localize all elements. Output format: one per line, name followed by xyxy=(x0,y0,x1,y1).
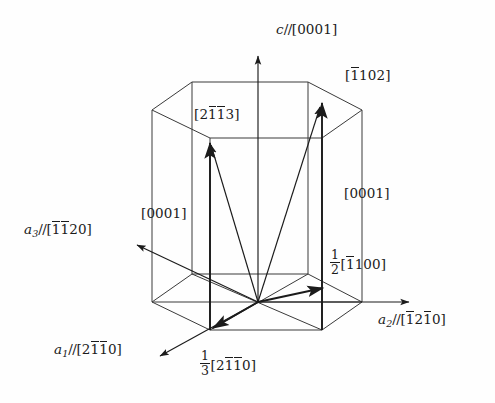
fraction-one-half: 12 xyxy=(330,249,340,277)
label-a1-digits: 2110 xyxy=(82,341,117,357)
label-half1100-bracket-close: ] xyxy=(381,256,386,272)
label-vector-third-2110: 13[2110] xyxy=(200,350,256,378)
label-c-digits: 0001 xyxy=(297,21,332,37)
slip-vector-arrows xyxy=(211,107,320,302)
label-a2-digits: 1210 xyxy=(406,311,441,327)
label-a2-symbol: a xyxy=(378,311,386,327)
label-1102-bracket-close: ] xyxy=(385,67,390,83)
vector-arrow-half-1100 xyxy=(258,288,323,302)
label-0001l-digits: 0001 xyxy=(146,205,181,221)
fraction-one-third: 13 xyxy=(200,350,210,378)
label-half1100-digits: 1100 xyxy=(346,256,381,272)
fraction-numerator: 1 xyxy=(200,350,210,363)
label-a1-bracket-close: ] xyxy=(117,341,122,357)
vector-arrow-third-2110 xyxy=(213,302,258,328)
label-a1-symbol: a xyxy=(54,341,62,357)
label-0001r-bracket-close: ] xyxy=(384,185,389,201)
label-a3-bracket-close: ] xyxy=(87,221,92,237)
label-a1-axis: a1//[2110] xyxy=(54,342,122,359)
label-vector-2113: [2113] xyxy=(194,107,240,121)
label-a3-axis: a3//[1120] xyxy=(24,222,92,239)
label-c-bracket-close: ] xyxy=(332,21,337,37)
label-vector-half-1100: 12[1100] xyxy=(330,249,386,277)
label-0001l-bracket-close: ] xyxy=(181,205,186,221)
fraction-denominator: 3 xyxy=(200,364,210,377)
label-vector-0001-right: [0001] xyxy=(344,186,390,200)
crystal-unit-cell-figure: c//[0001] [1102] [2113] [0001] [0001] a3… xyxy=(0,0,495,403)
burgers-vector-arrows xyxy=(210,103,323,330)
fraction-numerator: 1 xyxy=(330,249,340,262)
label-a3-symbol: a xyxy=(24,221,32,237)
label-a2-axis: a2//[1210] xyxy=(378,312,446,329)
label-2113-digits: 2113 xyxy=(199,106,234,122)
label-vector-1102: [1102] xyxy=(345,68,391,82)
fraction-denominator: 2 xyxy=(330,263,340,276)
label-2113-bracket-close: ] xyxy=(234,106,239,122)
label-a3-digits: 1120 xyxy=(52,221,87,237)
label-c-axis: c//[0001] xyxy=(276,22,337,36)
label-third2110-bracket-close: ] xyxy=(251,357,256,373)
vector-arrow-2113 xyxy=(211,145,258,302)
vector-arrow-1102 xyxy=(258,107,320,302)
label-a2-bracket-close: ] xyxy=(441,311,446,327)
label-c-symbol: c xyxy=(276,21,284,37)
label-third2110-digits: 2110 xyxy=(216,357,251,373)
label-vector-0001-left: [0001] xyxy=(141,206,187,220)
label-1102-digits: 1102 xyxy=(350,67,385,83)
top-hexagon xyxy=(152,82,362,138)
label-c-sep: // xyxy=(284,21,292,37)
label-0001r-digits: 0001 xyxy=(349,185,384,201)
